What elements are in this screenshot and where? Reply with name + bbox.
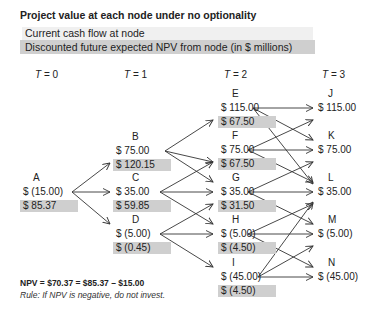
node-h-npv: $ (4.50) — [218, 242, 276, 254]
node-c-label: C — [132, 172, 139, 183]
node-a-npv: $ 85.37 — [20, 200, 78, 212]
node-c-cash-flow: $ 35.00 — [116, 186, 149, 197]
node-c-npv: $ 59.85 — [113, 200, 171, 212]
edge-a-b — [72, 163, 110, 192]
node-g-npv: $ 31.50 — [218, 200, 276, 212]
node-l-label: L — [328, 172, 334, 183]
tree-edges — [0, 0, 372, 315]
node-f-label: F — [232, 130, 238, 141]
node-h-cash-flow: $ (5.00) — [221, 228, 255, 239]
node-k-label: K — [328, 130, 335, 141]
node-i-cash-flow: $ (45.00) — [221, 271, 261, 282]
node-j-label: J — [328, 88, 333, 99]
edge-b-f — [165, 151, 213, 162]
node-h-label: H — [232, 214, 239, 225]
node-b-label: B — [132, 131, 139, 142]
node-d-npv: $ (0.45) — [113, 242, 171, 254]
edge-i-l — [258, 202, 313, 277]
node-e-label: E — [232, 88, 239, 99]
node-a-cash-flow: $ (15.00) — [23, 186, 63, 197]
node-j-cash-flow: $ 115.00 — [318, 102, 356, 113]
node-d-label: D — [132, 214, 139, 225]
node-i-npv: $ (4.50) — [218, 285, 276, 297]
node-g-label: G — [232, 172, 240, 183]
node-g-cash-flow: $ 35.00 — [221, 186, 254, 197]
node-e-cash-flow: $ 115.00 — [221, 102, 259, 113]
node-f-npv: $ 67.50 — [218, 158, 276, 170]
edge-b-e — [165, 120, 213, 151]
node-l-cash-flow: $ 35.00 — [318, 186, 351, 197]
node-a-label: A — [33, 172, 40, 183]
investment-rule: Rule: If NPV is negative, do not invest. — [20, 290, 165, 300]
node-n-cash-flow: $ (45.00) — [318, 271, 358, 282]
npv-formula: NPV = $70.37 = $85.37 – $15.00 — [20, 278, 144, 288]
node-k-cash-flow: $ 75.00 — [318, 144, 351, 155]
node-i-label: I — [232, 257, 235, 268]
node-n-label: N — [328, 257, 335, 268]
node-d-cash-flow: $ (5.00) — [116, 228, 150, 239]
node-e-npv: $ 67.50 — [218, 116, 276, 128]
node-m-cash-flow: $ (5.00) — [318, 228, 352, 239]
node-b-npv: $ 120.15 — [113, 159, 171, 171]
node-f-cash-flow: $ 75.00 — [221, 144, 254, 155]
node-b-cash-flow: $ 75.00 — [116, 145, 149, 156]
node-m-label: M — [328, 214, 336, 225]
